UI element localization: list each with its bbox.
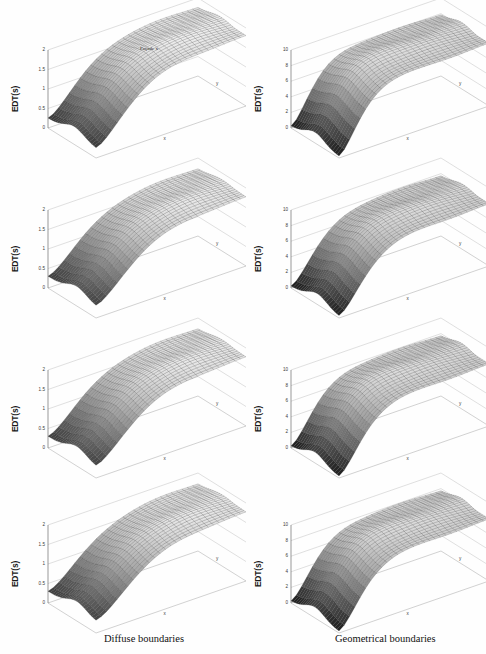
y-tick-label: 4 [275, 414, 288, 419]
y-tick-label: 0 [275, 125, 288, 130]
y-tick-label: 10 [275, 522, 288, 527]
y-tick-label: 2 [275, 584, 288, 589]
y-tick-label: 2 [275, 429, 288, 434]
y-tick-label: 6 [275, 78, 288, 83]
y-tick-label: 0.5 [32, 581, 45, 586]
x-axis-label: x [407, 136, 409, 141]
z-axis-label: y [459, 556, 461, 561]
x-axis-label: x [407, 456, 409, 461]
y-tick-label: 10 [275, 47, 288, 52]
surface-canvas [243, 168, 486, 325]
z-axis-label: y [216, 81, 218, 86]
surface-plot-row1-left: EDT(s)00.511.52xyFaçade x [0, 8, 243, 165]
y-tick-label: 10 [275, 367, 288, 372]
surface-plot-row3-left: EDT(s)00.511.52xy [0, 328, 243, 485]
y-tick-label: 8 [275, 383, 288, 388]
surface-plot-row4-right: EDT(s)0246810xy [243, 483, 486, 640]
surface-plot-row2-left: EDT(s)00.511.52xy [0, 168, 243, 325]
y-tick-label: 0.5 [32, 106, 45, 111]
y-tick-label: 8 [275, 223, 288, 228]
y-tick-label: 0 [275, 285, 288, 290]
x-axis-label: x [164, 611, 166, 616]
y-tick-label: 0.5 [32, 266, 45, 271]
y-tick-label: 2 [275, 269, 288, 274]
z-axis-label: y [459, 241, 461, 246]
x-axis-label: x [407, 611, 409, 616]
y-tick-label: 2 [32, 207, 45, 212]
surface-plot-row4-left: EDT(s)00.511.52xy [0, 483, 243, 640]
y-tick-label: 1.5 [32, 227, 45, 232]
z-axis-label: y [216, 401, 218, 406]
y-tick-label: 6 [275, 553, 288, 558]
surface-plot-row3-right: EDT(s)0246810xy [243, 328, 486, 485]
x-axis-label: x [164, 296, 166, 301]
y-tick-label: 0 [32, 445, 45, 450]
y-tick-label: 1 [32, 246, 45, 251]
y-tick-label: 4 [275, 94, 288, 99]
x-axis-label: x [407, 296, 409, 301]
y-tick-label: 0 [275, 600, 288, 605]
surface-plot-row2-right: EDT(s)0246810xy [243, 168, 486, 325]
y-tick-label: 1.5 [32, 542, 45, 547]
figure-surface-grid: EDT(s)00.511.52xyFaçade xEDT(s)0246810xy… [0, 0, 486, 654]
surface-canvas [243, 8, 486, 165]
facade-annotation: Façade x [140, 46, 158, 51]
surface-plot-row1-right: EDT(s)0246810xy [243, 8, 486, 165]
y-tick-label: 0 [275, 445, 288, 450]
y-tick-label: 1 [32, 406, 45, 411]
y-tick-label: 0 [32, 600, 45, 605]
y-tick-label: 8 [275, 63, 288, 68]
y-tick-label: 2 [275, 109, 288, 114]
caption-diffuse-boundaries: Diffuse boundaries [104, 633, 184, 644]
cut-off-caption-line [40, 649, 450, 654]
surface-canvas [243, 328, 486, 485]
z-axis-label: y [216, 556, 218, 561]
y-tick-label: 1.5 [32, 67, 45, 72]
y-tick-label: 10 [275, 207, 288, 212]
y-tick-label: 2 [32, 47, 45, 52]
y-tick-label: 4 [275, 569, 288, 574]
y-tick-label: 6 [275, 238, 288, 243]
y-tick-label: 1 [32, 561, 45, 566]
z-axis-label: y [459, 81, 461, 86]
y-tick-label: 8 [275, 538, 288, 543]
y-tick-label: 6 [275, 398, 288, 403]
y-tick-label: 1 [32, 86, 45, 91]
y-tick-label: 0 [32, 125, 45, 130]
y-tick-label: 2 [32, 522, 45, 527]
y-tick-label: 4 [275, 254, 288, 259]
x-axis-label: x [164, 136, 166, 141]
y-tick-label: 1.5 [32, 387, 45, 392]
surface-canvas [243, 483, 486, 640]
y-tick-label: 0 [32, 285, 45, 290]
y-tick-label: 2 [32, 367, 45, 372]
x-axis-label: x [164, 456, 166, 461]
caption-geometrical-boundaries: Geometrical boundaries [335, 633, 436, 644]
z-axis-label: y [216, 241, 218, 246]
z-axis-label: y [459, 401, 461, 406]
y-tick-label: 0.5 [32, 426, 45, 431]
